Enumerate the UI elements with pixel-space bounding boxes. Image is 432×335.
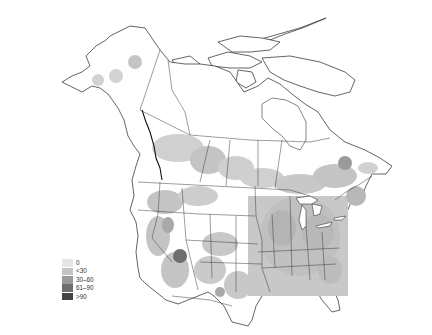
legend-label: >90: [76, 293, 87, 301]
legend-item-4: >90: [62, 293, 94, 301]
legend-swatch: [62, 268, 73, 276]
legend-swatch: [62, 293, 73, 301]
legend-label: 61–90: [76, 284, 94, 292]
legend-label: <30: [76, 267, 87, 275]
legend-swatch: [62, 276, 73, 284]
map-legend: 0 <30 30–60 61–90 >90: [62, 259, 94, 301]
legend-item-2: 30–60: [62, 276, 94, 284]
legend-label: 0: [76, 259, 80, 267]
legend-label: 30–60: [76, 276, 94, 284]
legend-item-0: 0: [62, 259, 94, 267]
legend-swatch: [62, 259, 73, 267]
legend-item-1: <30: [62, 267, 94, 275]
legend-swatch: [62, 284, 73, 292]
legend-item-3: 61–90: [62, 284, 94, 292]
